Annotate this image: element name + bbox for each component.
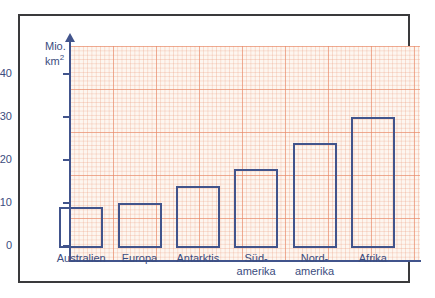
y-axis-tick-10 [63,202,70,204]
y-axis-unit-line2: km [45,55,60,67]
category-label: Süd- amerika [227,252,285,277]
chart-figure: Mio. km2 010203040 AustralienEuropaAntar… [0,0,435,298]
y-axis-tick-label-40: 40 [0,68,12,79]
y-axis-tick-label-10: 10 [0,197,12,208]
bar [176,186,220,248]
y-axis-tick-label-20: 20 [0,154,12,165]
y-axis-arrow-icon [65,33,75,42]
y-axis-tick-label-30: 30 [0,111,12,122]
bar [118,203,162,248]
bar [234,169,278,248]
y-axis-unit-exponent: 2 [60,53,64,62]
y-axis-unit-label: Mio. km2 [45,40,66,67]
bar [293,143,337,248]
category-label: Australien [52,252,110,265]
figure-frame: Mio. km2 010203040 AustralienEuropaAntar… [18,14,410,283]
y-axis-tick-30 [63,116,70,118]
y-axis-unit-line1: Mio. [45,40,66,52]
y-axis-tick-label-0: 0 [0,240,12,251]
y-axis-tick-40 [63,73,70,75]
bar [59,207,103,248]
category-label: Antarktis [169,252,227,265]
bar [351,117,395,248]
y-axis-tick-20 [63,159,70,161]
category-label: Nord- amerika [285,252,343,277]
category-label: Europa [110,252,168,265]
category-label: Afrika [344,252,402,265]
